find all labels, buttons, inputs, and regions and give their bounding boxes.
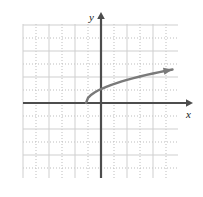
square-root-curve: [86, 69, 172, 103]
y-axis-arrowhead: [97, 12, 105, 19]
graph-figure: y x: [0, 0, 203, 197]
coordinate-plane: y x: [0, 0, 203, 197]
function-curve-group: [86, 68, 172, 103]
x-axis-arrowhead: [186, 99, 193, 107]
y-axis-label: y: [88, 11, 94, 23]
x-axis-label: x: [185, 108, 191, 120]
